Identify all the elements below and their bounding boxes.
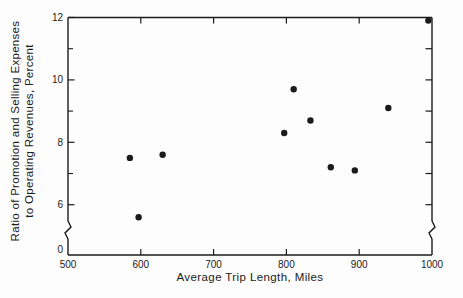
data-point	[425, 17, 431, 23]
data-point	[352, 167, 358, 173]
x-tick-label: 700	[205, 259, 222, 270]
data-point	[127, 155, 133, 161]
data-point	[328, 164, 334, 170]
data-point	[135, 214, 141, 220]
x-tick-label: 600	[132, 259, 149, 270]
scatter-plot-figure: 50060070080090010001210860 Ratio of Prom…	[0, 0, 463, 298]
data-point	[281, 130, 287, 136]
x-tick-label: 500	[60, 259, 77, 270]
axis-break-mark	[65, 221, 71, 239]
x-tick-label: 900	[351, 259, 368, 270]
data-point	[385, 105, 391, 111]
y-axis-label-line2: to Operating Revenues, Percent	[23, 44, 35, 217]
x-axis-label: Average Trip Length, Miles	[177, 271, 324, 283]
plot-area: 50060070080090010001210860	[0, 0, 463, 298]
x-tick-label: 800	[278, 259, 295, 270]
y-axis-label-line1: Ratio of Promotion and Selling Expenses	[9, 21, 21, 242]
y-zero-label: 0	[57, 244, 63, 255]
y-tick-label: 6	[57, 199, 63, 210]
y-tick-label: 10	[52, 74, 64, 85]
data-point	[307, 117, 313, 123]
data-point	[159, 152, 165, 158]
y-tick-label: 8	[57, 137, 63, 148]
y-tick-label: 12	[52, 12, 64, 23]
axis-break-mark	[429, 221, 435, 239]
x-tick-label: 1000	[421, 259, 444, 270]
data-point	[290, 86, 296, 92]
